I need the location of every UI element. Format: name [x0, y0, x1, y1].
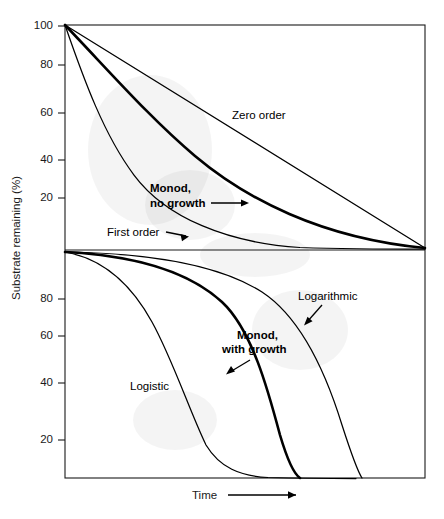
- scan-smudges: [88, 75, 348, 450]
- leader-monod-with-growth: [226, 360, 250, 375]
- ytick-upper-20: 20: [40, 191, 53, 203]
- label-logistic: Logistic: [130, 380, 169, 392]
- kinetics-figure: 100 80 60 40 20 80 60 40 20 Substrate re…: [0, 0, 444, 519]
- arrow-right-icon: [241, 199, 249, 206]
- ytick-lower-40: 40: [40, 376, 53, 388]
- arrow-right-icon: [288, 491, 296, 498]
- ytick-upper-60: 60: [40, 106, 53, 118]
- y-axis-upper: 100 80 60 40 20: [34, 19, 65, 203]
- ytick-upper-40: 40: [40, 153, 53, 165]
- y-axis-lower: 80 60 40 20: [40, 292, 65, 445]
- ytick-lower-20: 20: [40, 433, 53, 445]
- x-axis-title-group: Time: [192, 489, 296, 501]
- label-monod-no-growth-line1: Monod,: [150, 182, 191, 194]
- x-axis-title: Time: [192, 489, 217, 501]
- label-monod-with-growth-line1: Monod,: [237, 329, 278, 341]
- y-axis-title: Substrate remaining (%): [10, 176, 22, 300]
- ytick-lower-60: 60: [40, 329, 53, 341]
- figure-root: 100 80 60 40 20 80 60 40 20 Substrate re…: [0, 0, 444, 519]
- arrow-down-left-icon: [226, 366, 235, 375]
- label-monod-no-growth-line2: no growth: [150, 197, 206, 209]
- label-zero-order: Zero order: [232, 109, 286, 121]
- label-first-order: First order: [107, 226, 160, 238]
- label-monod-with-growth-line2: with growth: [221, 343, 287, 355]
- label-logarithmic: Logarithmic: [298, 290, 358, 302]
- ytick-lower-80: 80: [40, 292, 53, 304]
- ytick-upper-80: 80: [40, 58, 53, 70]
- ytick-upper-100: 100: [34, 19, 53, 31]
